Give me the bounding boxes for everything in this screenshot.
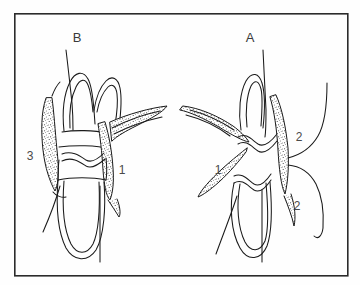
figure-container: B A 3 1 1 2 2 [0,0,360,285]
callout-label-1-right: 1 [215,163,222,177]
anatomical-line-drawing: B A 3 1 1 2 2 [0,0,360,285]
panel-label-b: B [73,30,82,45]
callout-label-3-left: 3 [27,149,34,163]
callout-label-1-left: 1 [119,163,126,177]
callout-label-2-upper: 2 [296,130,303,144]
callout-label-2-lower: 2 [294,199,301,213]
panel-label-a: A [246,30,255,45]
